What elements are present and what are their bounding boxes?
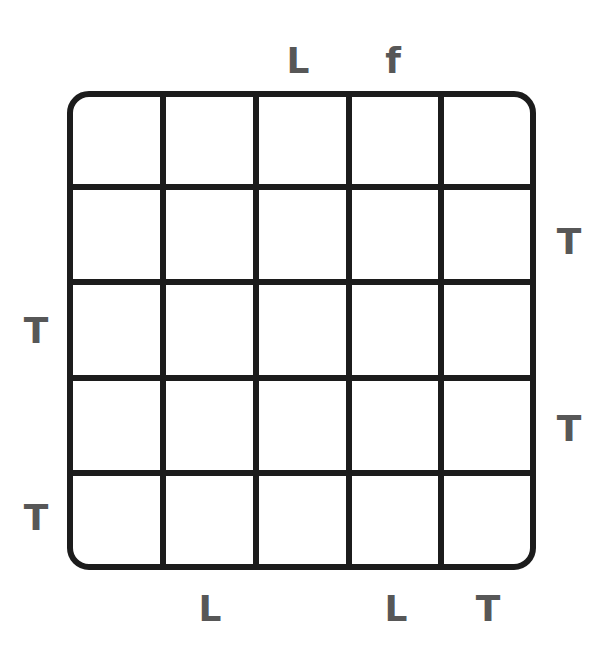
grid-cell[interactable] [259,476,346,564]
grid-cell[interactable] [259,381,346,470]
grid-cell[interactable] [73,285,160,375]
clue-left-row5: T [16,500,56,536]
grid-cell[interactable] [352,190,438,279]
grid-cell[interactable] [444,381,530,470]
grid-cell[interactable] [352,381,438,470]
grid-cell[interactable] [444,97,530,184]
clue-right-row2: T [549,224,589,260]
grid-cell[interactable] [352,285,438,375]
clue-right-row4: T [549,411,589,447]
grid-cell[interactable] [259,285,346,375]
grid-cell[interactable] [166,97,253,184]
grid-cell[interactable] [352,476,438,564]
grid-cell[interactable] [166,476,253,564]
grid-cell[interactable] [444,285,530,375]
grid-cell[interactable] [352,97,438,184]
grid-cell[interactable] [259,190,346,279]
clue-bottom-col2: L [190,591,230,627]
clue-top-col4: f [373,43,413,79]
clue-left-row3: T [16,313,56,349]
grid-cell[interactable] [166,285,253,375]
clue-bottom-col4: L [376,591,416,627]
grid-cell[interactable] [259,97,346,184]
grid-cell[interactable] [73,97,160,184]
grid-cell[interactable] [166,190,253,279]
grid-cell[interactable] [73,381,160,470]
grid-cell[interactable] [166,381,253,470]
puzzle-grid [67,91,536,570]
clue-top-col3: L [278,43,318,79]
grid-cell[interactable] [73,190,160,279]
grid-cell[interactable] [444,190,530,279]
grid-cell[interactable] [444,476,530,564]
clue-bottom-col5: T [468,591,508,627]
grid-cell[interactable] [73,476,160,564]
